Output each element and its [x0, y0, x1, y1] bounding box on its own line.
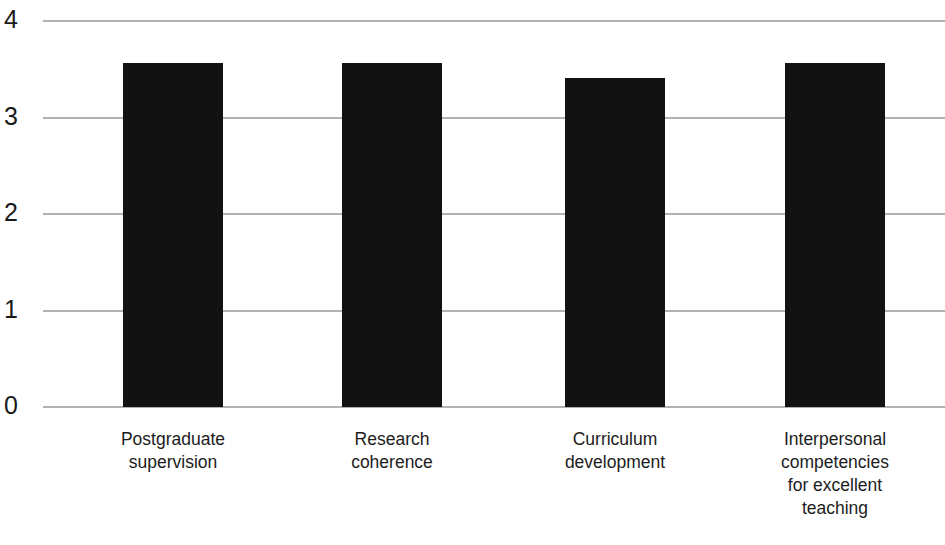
category-label-line: coherence: [287, 451, 497, 474]
y-axis-tick-label: 2: [4, 200, 34, 225]
category-label: Curriculumdevelopment: [510, 428, 720, 474]
y-axis-tick-label: 4: [4, 7, 34, 32]
category-label-line: Postgraduate: [68, 428, 278, 451]
category-label: Interpersonalcompetenciesfor excellentte…: [730, 428, 940, 520]
category-label-line: Curriculum: [510, 428, 720, 451]
bar: [565, 78, 665, 407]
bar: [785, 63, 885, 407]
plot-area: 01234: [0, 0, 945, 420]
category-label: Researchcoherence: [287, 428, 497, 474]
category-label-line: development: [510, 451, 720, 474]
category-label-line: Interpersonal: [730, 428, 940, 451]
category-label-line: competencies: [730, 451, 940, 474]
bar-chart: 01234 PostgraduatesupervisionResearchcoh…: [0, 0, 945, 545]
category-label-line: for excellent: [730, 474, 940, 497]
bar: [123, 63, 223, 407]
y-axis-tick-label: 1: [4, 297, 34, 322]
gridline-4: [43, 20, 945, 22]
category-label-line: Research: [287, 428, 497, 451]
y-axis-tick-label: 0: [4, 393, 34, 418]
y-axis-tick-label: 3: [4, 104, 34, 129]
category-label-line: teaching: [730, 497, 940, 520]
category-label: Postgraduatesupervision: [68, 428, 278, 474]
category-label-line: supervision: [68, 451, 278, 474]
bar: [342, 63, 442, 407]
